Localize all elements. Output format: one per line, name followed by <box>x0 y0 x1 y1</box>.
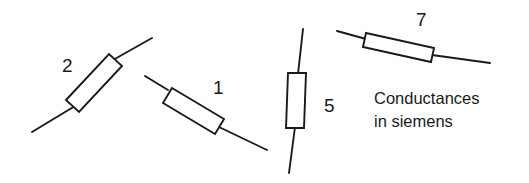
resistor-1-lead-upper <box>145 76 168 90</box>
resistor-5-symbol <box>286 29 306 173</box>
resistor-2-symbol <box>32 38 152 132</box>
resistor-network-figure: 2 1 5 7 Conductances in siemens <box>0 0 529 183</box>
caption-line-1: Conductances <box>374 87 480 110</box>
resistor-2-lead-upper <box>113 38 152 60</box>
resistor-2-body <box>66 54 122 112</box>
resistor-1-value-label: 1 <box>213 78 224 97</box>
resistor-7-body <box>363 33 434 62</box>
resistor-1-lead-lower <box>219 127 267 150</box>
units-caption: Conductances in siemens <box>374 87 480 134</box>
resistor-7-symbol <box>337 31 490 63</box>
caption-line-2: in siemens <box>374 110 480 133</box>
resistor-5-value-label: 5 <box>324 96 335 115</box>
resistor-7-value-label: 7 <box>416 10 427 29</box>
resistor-2-value-label: 2 <box>62 56 73 75</box>
resistor-2-lead-lower <box>32 106 75 132</box>
resistor-5-lead-bottom <box>289 127 295 173</box>
resistor-7-lead-left <box>337 31 366 39</box>
resistor-5-lead-top <box>298 29 303 74</box>
resistor-7-lead-right <box>432 55 490 63</box>
resistor-5-body <box>286 73 306 128</box>
resistor-1-symbol <box>145 76 267 150</box>
